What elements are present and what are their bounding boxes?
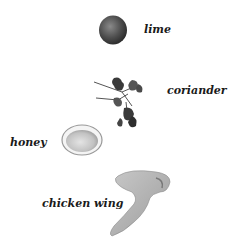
lime-image xyxy=(97,14,129,46)
lime-icon xyxy=(97,14,129,46)
lime-label: lime xyxy=(144,23,171,36)
chicken-wing-image xyxy=(104,168,176,238)
honey-bowl-icon xyxy=(60,123,104,157)
honey-image xyxy=(60,123,104,157)
chicken-wing-icon xyxy=(104,168,176,238)
honey-label: honey xyxy=(10,136,47,149)
coriander-label: coriander xyxy=(167,84,227,97)
